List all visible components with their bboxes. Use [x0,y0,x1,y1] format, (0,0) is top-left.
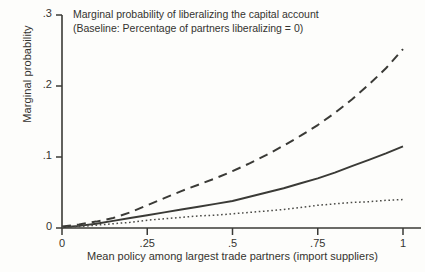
x-tick-label: .5 [213,237,253,249]
y-tick-label: .2 [26,78,52,90]
chart-figure: Marginal probability of liberalizing the… [0,0,425,272]
x-tick-label: .75 [298,237,338,249]
y-tick-label: 0 [26,220,52,232]
x-tick-label: 0 [42,237,82,249]
plot-canvas [0,0,425,272]
series-line-middle [62,146,403,227]
y-tick-label: .3 [26,7,52,19]
chart-title-block: Marginal probability of liberalizing the… [73,7,319,35]
data-series [62,49,403,227]
series-line-upper [62,49,403,227]
axes [62,15,421,228]
x-axis-title: Mean policy among largest trade partners… [40,250,425,262]
y-tick-label: .1 [26,149,52,161]
chart-subtitle: (Baseline: Percentage of partners libera… [73,21,319,35]
y-axis-title: Marginal probability [21,0,33,149]
chart-title: Marginal probability of liberalizing the… [73,7,319,21]
series-line-lower [62,200,403,228]
x-tick-label: 1 [383,237,423,249]
x-tick-label: .25 [127,237,167,249]
